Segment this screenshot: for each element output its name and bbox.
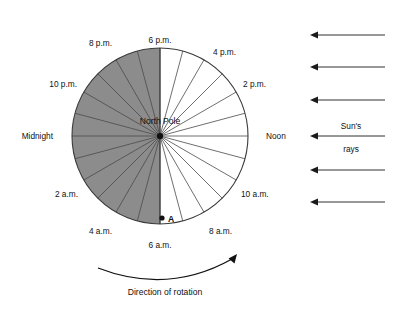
point-a-marker: [159, 215, 164, 220]
hour-label: 10 a.m.: [241, 189, 269, 199]
hour-label: 8 p.m.: [89, 38, 112, 48]
hour-label: Midnight: [22, 131, 54, 141]
hour-label: 8 a.m.: [209, 226, 232, 236]
sun-rays-label-line2: rays: [343, 144, 359, 154]
earth-rotation-diagram: North Pole 6 p.m.4 p.m.2 p.m.Noon10 a.m.…: [0, 0, 399, 313]
north-pole-label: North Pole: [140, 116, 181, 126]
hour-label: 2 a.m.: [55, 189, 78, 199]
hour-label: 4 a.m.: [89, 226, 112, 236]
sun-rays-label-line1: Sun's: [341, 121, 362, 131]
rotation-caption-label: Direction of rotation: [128, 287, 203, 297]
point-a-label: A: [168, 214, 174, 224]
hour-label: 2 p.m.: [243, 79, 266, 89]
hour-label: 4 p.m.: [213, 47, 236, 57]
hour-label: Noon: [266, 131, 286, 141]
hour-label: 10 p.m.: [49, 79, 77, 89]
hour-label: 6 a.m.: [148, 240, 171, 250]
north-pole-dot: [157, 133, 163, 139]
hour-label: 6 p.m.: [148, 35, 171, 45]
